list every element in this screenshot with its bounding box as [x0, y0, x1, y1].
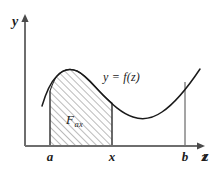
- y-axis-arrowhead: [21, 14, 28, 22]
- tick-label-a: a: [40, 150, 60, 163]
- tick-label-x: x: [102, 150, 122, 163]
- y-axis-label: y: [12, 15, 18, 29]
- diagram-svg: [0, 0, 221, 169]
- shaded-area-label-subscript: ax: [74, 119, 82, 129]
- function-equation-label: y = f(z): [103, 71, 140, 83]
- figure-canvas: y z y = f(z) Fax axbz: [0, 0, 221, 169]
- tick-label-z: z: [194, 150, 214, 163]
- tick-label-b: b: [175, 150, 195, 163]
- shaded-area-label-main: F: [66, 112, 74, 127]
- shaded-area-label: Fax: [66, 113, 82, 126]
